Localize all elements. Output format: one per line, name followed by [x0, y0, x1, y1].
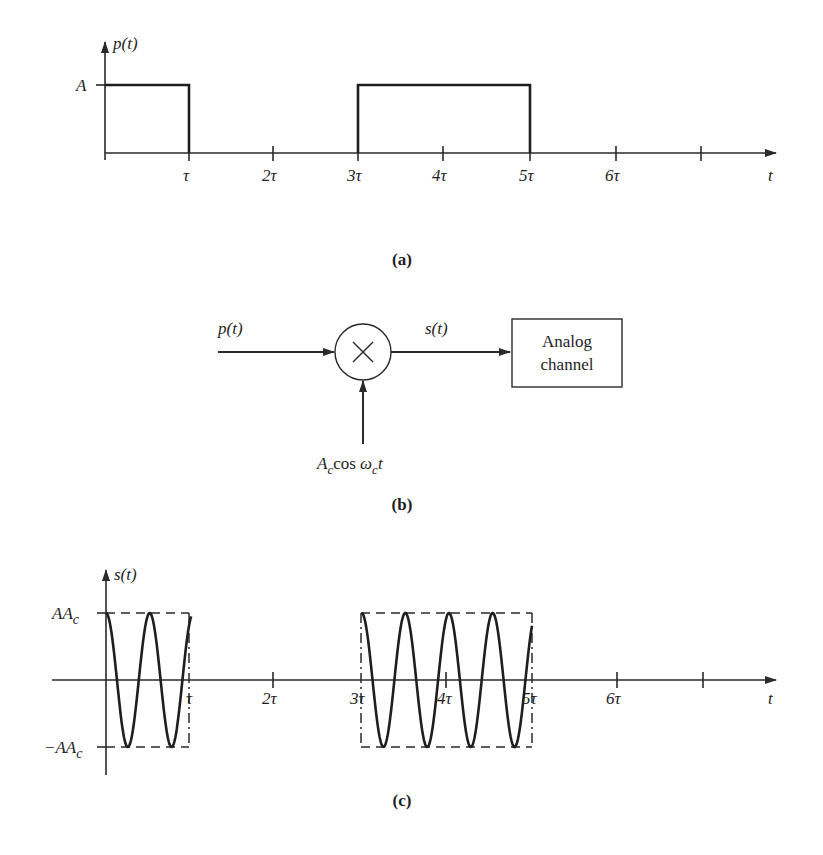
output-label: s(t): [425, 319, 448, 338]
p-tick-label-4: 4τ: [432, 166, 448, 185]
input-label: p(t): [217, 319, 243, 338]
p-tick-label-5: 5τ: [519, 166, 535, 185]
modulation-figure: p(t) A τ 2τ 3τ 4τ 5τ 6τ t (a) p(t) s(t) …: [0, 0, 823, 855]
carrier-label: Accos ωct: [316, 454, 384, 477]
s-tick-label-4: 4τ: [437, 689, 453, 708]
p-y-label: p(t): [112, 34, 138, 53]
p-level-label: A: [75, 76, 87, 95]
caption-c: (c): [393, 791, 412, 810]
s-x-label: t: [768, 689, 774, 708]
p-tick-label-3: 3τ: [346, 166, 363, 185]
p-x-label: t: [768, 166, 774, 185]
caption-b: (b): [392, 495, 413, 514]
panel-c-modulated-signal: s(t) AAc −AAc τ 2τ 3τ 4τ 5τ 6τ t (c): [44, 565, 776, 810]
s-tick-label-2: 2τ: [262, 689, 278, 708]
multiply-icon: [353, 342, 373, 362]
panel-b-block-diagram: p(t) s(t) Accos ωct Analog channel (b): [217, 319, 622, 514]
pulse-2: [358, 85, 530, 153]
s-y-label: s(t): [114, 565, 137, 584]
s-tick-label-5: 5τ: [522, 689, 538, 708]
analog-channel-block: [512, 319, 622, 387]
s-tick-label-3: 3τ: [349, 689, 366, 708]
pulse-1: [105, 85, 189, 153]
p-tick-label-1: τ: [183, 166, 190, 185]
block-label-line1: Analog: [542, 332, 593, 351]
p-tick-label-6: 6τ: [605, 166, 621, 185]
s-tick-label-1: τ: [186, 689, 193, 708]
p-tick-label-2: 2τ: [262, 166, 278, 185]
caption-a: (a): [392, 250, 412, 269]
s-upper-label: AAc: [51, 604, 80, 627]
s-lower-label: −AAc: [44, 738, 83, 761]
panel-a-pulse-train: p(t) A τ 2τ 3τ 4τ 5τ 6τ t (a): [75, 34, 776, 269]
block-label-line2: channel: [541, 355, 594, 374]
s-tick-label-6: 6τ: [606, 689, 622, 708]
